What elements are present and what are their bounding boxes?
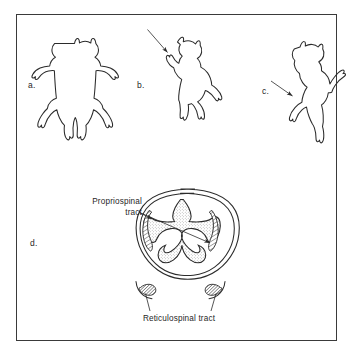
reticulospinal-leader-left (146, 294, 151, 312)
panel-d-spinal-cord (136, 189, 239, 311)
figure-root: a. b. c. d. Propriospinal tract Reticulo… (0, 0, 353, 357)
panel-b-cat-figure (148, 30, 222, 121)
panel-letter-c: c. (262, 86, 269, 96)
panel-letter-b: b. (137, 80, 145, 90)
panel-c-cat-figure (271, 41, 346, 142)
figure-artwork (0, 0, 353, 357)
propriospinal-label-line1: Propriospinal (56, 197, 142, 208)
panel-a-cat-figure (32, 39, 118, 140)
propriospinal-label-line2: tract (56, 208, 142, 219)
panel-letter-d: d. (30, 238, 38, 248)
reticulospinal-leader-right (211, 294, 216, 312)
reticulospinal-tract-label: Reticulospinal tract (113, 314, 245, 325)
panel-letter-a: a. (28, 80, 36, 90)
panel-c-arrow (271, 81, 293, 96)
panel-b-arrow (148, 30, 168, 53)
propriospinal-tract-label: Propriospinal tract (56, 197, 142, 218)
